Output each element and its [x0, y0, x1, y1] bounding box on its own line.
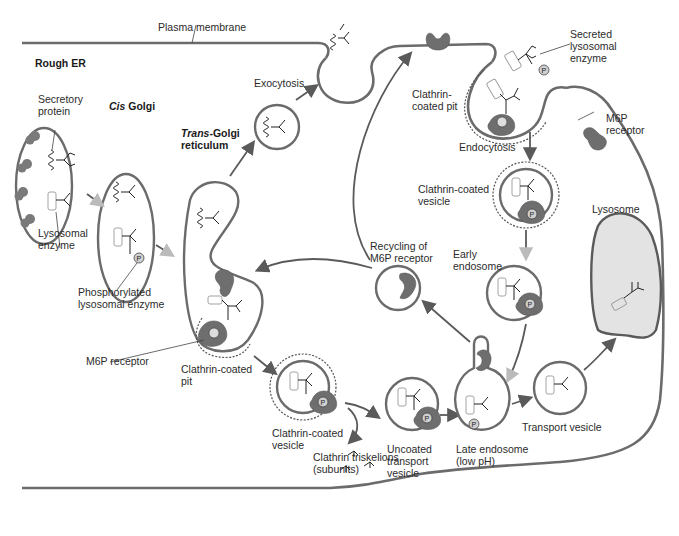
label-transport-vesicle: Transport vesicle: [522, 421, 602, 433]
label-clathrin-pit-left: Clathrin-coated pit: [181, 363, 252, 387]
m6p-receptor-membrane: [426, 33, 450, 50]
label-trans-golgi: Trans-Golgi reticulum: [181, 127, 240, 151]
label-secretory-protein: Secretory protein: [38, 93, 83, 117]
label-secreted-enzyme: Secreted lysosomal enzyme: [570, 28, 617, 64]
label-lysosome: Lysosome: [592, 203, 639, 215]
label-endocytosis: Endocytosis: [459, 141, 516, 153]
svg-text:P: P: [137, 255, 142, 262]
label-plasma-membrane: Plasma membrane: [158, 21, 246, 33]
label-clathrin-triskelions: Clathrin triskelions (subunits): [313, 451, 399, 475]
label-late-endosome: Late endosome (low pH): [456, 443, 528, 467]
label-early-endosome: Early endosome: [453, 248, 502, 272]
cis-golgi: [98, 174, 154, 302]
label-recycling: Recycling of M6P receptor: [370, 240, 433, 264]
endocytosis-pit: [468, 62, 566, 139]
m6p-receptor-right: [584, 128, 607, 150]
label-cis-golgi: Cis Golgi: [109, 100, 155, 112]
svg-text:P: P: [530, 211, 535, 218]
transport-vesicle: [534, 362, 586, 414]
svg-text:P: P: [321, 399, 326, 406]
label-m6p-receptor-left: M6P receptor: [86, 355, 149, 367]
lysosome: [591, 213, 661, 337]
svg-text:P: P: [472, 421, 477, 428]
svg-text:P: P: [528, 301, 533, 308]
label-m6p-receptor-right: M6P receptor: [606, 112, 645, 136]
label-exocytosis: Exocytosis: [254, 77, 304, 89]
label-clathrin-vesicle-left: Clathrin-coated vesicle: [272, 427, 343, 451]
exocytosis-bulge: [318, 46, 400, 103]
label-clathrin-vesicle-right: Clathrin-coated vesicle: [418, 183, 489, 207]
label-uncoated-vesicle: Uncoated transport vesicle: [387, 443, 432, 479]
label-rough-er: Rough ER: [35, 57, 86, 69]
svg-text:P: P: [542, 67, 547, 74]
label-clathrin-pit-right: Clathrin- coated pit: [412, 88, 458, 112]
label-phosphorylated-enzyme: Phosphorylated lysosomal enzyme: [78, 286, 164, 310]
svg-text:P: P: [425, 415, 430, 422]
label-lysosomal-enzyme: Lysosomal enzyme: [38, 227, 88, 251]
